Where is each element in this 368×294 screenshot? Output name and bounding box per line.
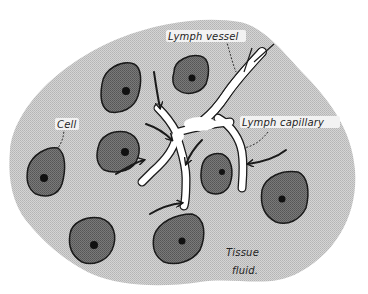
nucleus xyxy=(122,87,130,95)
nucleus xyxy=(40,174,48,182)
nucleus xyxy=(189,75,196,82)
label-cell: Cell xyxy=(57,119,77,130)
cell xyxy=(262,172,308,224)
label-tissue: Tissue xyxy=(226,247,259,258)
cell xyxy=(70,218,115,264)
cell xyxy=(201,154,232,194)
lymph-diagram: Lymph vessel Lymph capillary Cell Tissue… xyxy=(0,0,368,294)
nucleus xyxy=(90,241,98,249)
nucleus xyxy=(279,196,286,203)
label-fluid: fluid. xyxy=(232,265,258,276)
label-lymph-vessel: Lymph vessel xyxy=(168,31,239,42)
nucleus xyxy=(179,238,186,245)
nucleus xyxy=(121,148,129,156)
nucleus xyxy=(219,169,225,175)
label-lymph-capillary: Lymph capillary xyxy=(242,117,325,128)
cell xyxy=(97,132,139,172)
